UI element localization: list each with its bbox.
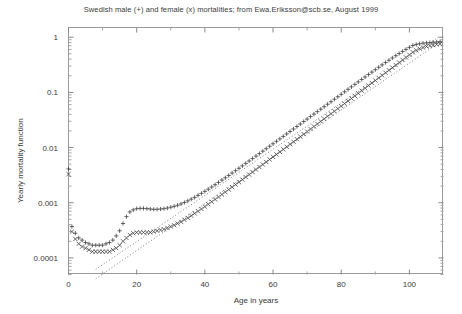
marker-plus (247, 159, 251, 163)
marker-plus (319, 107, 323, 111)
marker-plus (261, 149, 265, 153)
y-tick-label: 0.01 (8, 143, 58, 152)
marker-plus (397, 51, 401, 55)
marker-plus (165, 206, 169, 210)
marker-x (421, 45, 425, 49)
marker-x (77, 242, 81, 246)
marker-plus (418, 42, 422, 46)
marker-plus (216, 180, 220, 184)
marker-plus (370, 70, 374, 74)
marker-x (233, 183, 237, 187)
marker-x (73, 237, 77, 241)
marker-x (377, 76, 381, 80)
marker-plus (223, 176, 227, 180)
y-tick-label: 0.1 (8, 88, 58, 97)
marker-x (169, 224, 173, 228)
marker-plus (373, 68, 377, 72)
marker-plus (220, 178, 224, 182)
series-male-plus-markers (66, 40, 442, 248)
marker-plus (237, 166, 241, 170)
marker-plus (400, 49, 404, 53)
marker-plus (250, 156, 254, 160)
marker-x (274, 152, 278, 156)
marker-plus (111, 238, 115, 242)
marker-plus (227, 173, 231, 177)
marker-x (203, 205, 207, 209)
marker-plus (230, 171, 234, 175)
marker-plus (363, 75, 367, 79)
y-tick-label: 0.001 (8, 198, 58, 207)
marker-plus (124, 215, 128, 219)
marker-x (346, 99, 350, 103)
marker-x (360, 89, 364, 93)
marker-x (250, 170, 254, 174)
marker-plus (66, 167, 70, 171)
marker-plus (244, 161, 248, 165)
marker-x (220, 192, 224, 196)
marker-plus (274, 139, 278, 143)
marker-plus (288, 129, 292, 133)
marker-plus (407, 45, 411, 49)
marker-plus (278, 137, 282, 141)
marker-plus (254, 154, 258, 158)
marker-x (353, 94, 357, 98)
marker-x (315, 122, 319, 126)
marker-x (213, 197, 217, 201)
marker-plus (383, 60, 387, 64)
marker-plus (285, 132, 289, 136)
marker-x (216, 195, 220, 199)
marker-plus (281, 134, 285, 138)
marker-x (325, 114, 329, 118)
plot-canvas (0, 0, 462, 314)
marker-x (240, 178, 244, 182)
marker-plus (329, 100, 333, 104)
marker-x (230, 185, 234, 189)
marker-plus (322, 105, 326, 109)
marker-x (291, 140, 295, 144)
x-tick-label: 100 (389, 280, 429, 289)
x-tick-label: 20 (117, 280, 157, 289)
marker-plus (411, 43, 415, 47)
marker-x (339, 104, 343, 108)
marker-x (271, 155, 275, 159)
marker-x (66, 172, 70, 176)
marker-x (118, 243, 122, 247)
y-tick-label: 1 (8, 33, 58, 42)
marker-plus (339, 92, 343, 96)
marker-plus (257, 152, 261, 156)
marker-plus (336, 95, 340, 99)
marker-x (407, 53, 411, 57)
marker-plus (390, 56, 394, 60)
chart-page: Swedish male (+) and female (x) mortalit… (0, 0, 462, 314)
marker-plus (387, 58, 391, 62)
marker-plus (199, 191, 203, 195)
marker-plus (404, 47, 408, 51)
marker-plus (302, 119, 306, 123)
marker-x (302, 132, 306, 136)
marker-plus (233, 169, 237, 173)
marker-x (370, 81, 374, 85)
marker-x (261, 162, 265, 166)
marker-x (329, 112, 333, 116)
marker-x (390, 66, 394, 70)
marker-x (343, 101, 347, 105)
marker-plus (366, 72, 370, 76)
marker-plus (114, 234, 118, 238)
marker-plus (349, 85, 353, 89)
y-tick-label: 0.0001 (8, 253, 58, 262)
marker-plus (213, 183, 217, 187)
marker-plus (343, 90, 347, 94)
marker-x (349, 96, 353, 100)
marker-x (244, 175, 248, 179)
marker-plus (118, 229, 122, 233)
marker-x (322, 117, 326, 121)
marker-x (257, 165, 261, 169)
marker-x (199, 207, 203, 211)
marker-x (383, 71, 387, 75)
marker-plus (380, 63, 384, 67)
x-tick-label: 80 (321, 280, 361, 289)
marker-plus (206, 187, 210, 191)
marker-plus (346, 87, 350, 91)
marker-x (380, 73, 384, 77)
marker-plus (196, 193, 200, 197)
